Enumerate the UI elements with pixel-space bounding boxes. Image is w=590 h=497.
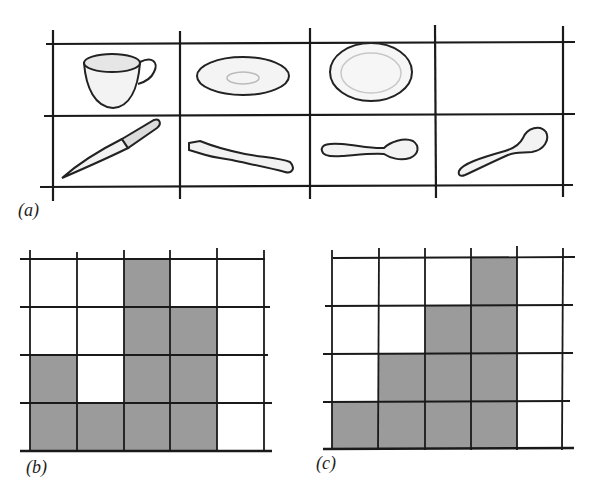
- figure-canvas: [0, 0, 590, 497]
- panel-a-grid: [40, 25, 575, 201]
- panel-b-label: (b): [26, 457, 47, 478]
- cup-icon: [84, 54, 156, 108]
- knife-icon: [62, 120, 160, 178]
- panel-c-label: (c): [316, 453, 336, 474]
- fork-icon: [189, 141, 293, 172]
- spoon-icon: [459, 128, 547, 176]
- saucer-icon: [197, 57, 289, 95]
- plate-icon: [330, 43, 412, 101]
- teaspoon-icon: [322, 140, 418, 160]
- panel-a-label: (a): [18, 200, 39, 221]
